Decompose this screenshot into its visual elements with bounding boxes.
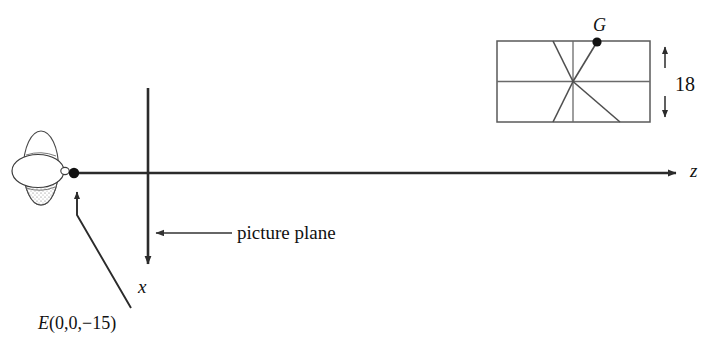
object-box [497,37,650,122]
eye-icon [12,131,69,205]
diagram-vector-layer [0,0,713,349]
eye-point-label-letter: E [38,313,49,333]
eye-point-label-coords: (0,0,−15) [49,313,116,333]
vertex-g-label: G [593,15,606,36]
dimension-label-18: 18 [675,73,695,96]
z-axis-label: z [690,160,697,182]
vertex-g-marker [592,37,601,46]
eye-point-leader-line [77,192,131,308]
dimension-arrow-18 [658,42,672,118]
eye-point-label: E(0,0,−15) [38,313,116,334]
picture-plane-label: picture plane [237,222,336,244]
eye-point-marker [69,168,79,178]
diagram-canvas: z x G 18 picture plane E(0,0,−15) [0,0,713,349]
x-axis-label: x [138,276,146,298]
